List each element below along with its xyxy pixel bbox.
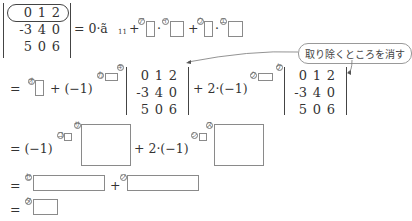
label-se: セ [25,174,32,181]
cell: 5 [131,103,149,117]
label-so: ソ [120,174,127,181]
answer-box-ta[interactable] [33,199,58,215]
cell: 4 [307,86,321,100]
answer-box-o[interactable] [35,80,44,96]
cell: 1 [307,69,321,83]
line3-eq-neg1: = (−1) [10,143,53,156]
determinant-minor-2: 0 1 2 -3 4 0 5 0 6 [289,69,335,117]
cell: 6 [321,103,335,117]
answer-box-ko[interactable] [64,133,72,141]
line2-plus-neg1: + (−1) [50,83,93,96]
det2-left-bar [126,67,127,115]
cell: 2 [163,69,177,83]
line2-plus-two-neg1: + 2·(−1) [193,83,248,96]
label-ko: コ [57,132,64,139]
label-ka: カ [97,72,104,79]
answer-box-shi[interactable] [199,133,207,141]
cell: 0 [149,103,163,117]
det2-right-bar [188,67,189,115]
line3-plus-two-neg1: + 2·(−1) [134,143,189,156]
line2-eq: = [10,83,20,96]
cell: 0 [321,86,335,100]
cell: 0 [163,86,177,100]
answer-box-ka[interactable] [105,73,118,81]
determinant-minor-1: 0 1 2 -3 4 0 5 0 6 [131,69,177,117]
label-su: ス [206,122,213,129]
label-ku: ク [250,72,257,79]
label-ta: タ [25,198,32,205]
cell: 1 [149,69,163,83]
cell: 0 [307,103,321,117]
det3-right-bar [346,67,347,115]
answer-box-ku[interactable] [258,73,273,81]
label-sa: サ [74,122,81,129]
det3-left-bar [284,67,285,115]
cell: 5 [289,103,307,117]
answer-box-so[interactable] [127,175,199,191]
answer-box-su[interactable] [214,124,264,166]
cell: -3 [289,86,307,100]
label-o: オ [28,78,35,85]
cell: 0 [131,69,149,83]
label-shi: シ [191,132,198,139]
cell: 6 [163,103,177,117]
line4-plus: + [110,180,120,193]
cell: -3 [131,86,149,100]
line4-eq: = [10,180,20,193]
cell: 4 [149,86,163,100]
label-ki: キ [117,64,124,71]
line5-eq: = [10,204,20,217]
answer-box-se[interactable] [33,175,105,191]
cell: 0 [289,69,307,83]
label-ke: ケ [276,64,283,71]
answer-box-sa[interactable] [81,124,131,166]
cell: 2 [321,69,335,83]
